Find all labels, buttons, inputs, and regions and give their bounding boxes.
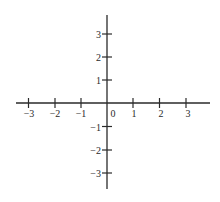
y-tick-label: 3	[96, 29, 101, 40]
x-tick-label: −3	[24, 108, 35, 119]
coordinate-plane: −3 −2 −1 1 2 3 0 3 2 1 −1 −2 −3	[0, 0, 220, 202]
origin-label: 0	[111, 108, 116, 119]
y-tick-label: −3	[90, 168, 101, 179]
y-tick-label: −2	[90, 145, 101, 156]
y-tick-label: 1	[96, 75, 101, 86]
y-axis-labels: 3 2 1 −1 −2 −3	[90, 29, 101, 179]
x-tick-label: −2	[50, 108, 61, 119]
y-tick-label: 2	[96, 52, 101, 63]
x-tick-label: 3	[186, 108, 191, 119]
x-tick-label: 1	[132, 108, 137, 119]
y-tick-label: −1	[90, 122, 101, 133]
x-tick-label: 2	[159, 108, 164, 119]
x-tick-label: −1	[76, 108, 87, 119]
